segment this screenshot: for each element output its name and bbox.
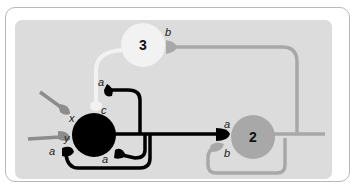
label-node2-a: a	[224, 118, 230, 130]
input-y-line	[28, 137, 60, 139]
label-node1-bottom-a: a	[102, 153, 108, 165]
edge-1-self-loop-bottom	[122, 134, 145, 158]
node-3-label: 3	[139, 37, 147, 53]
label-node2-b: b	[224, 147, 230, 159]
label-node1-c: c	[101, 104, 107, 116]
synapse-2-self-b	[210, 142, 224, 152]
label-node3-b: b	[165, 26, 171, 38]
synapse-1-left-a	[62, 147, 74, 157]
node-1	[72, 113, 116, 157]
node-2-label: 2	[249, 129, 257, 145]
label-node1-x: x	[68, 112, 75, 124]
label-node1-top-a: a	[98, 76, 104, 88]
synapse-2-to-3-b	[166, 40, 177, 54]
synapse-1-top-a	[104, 84, 113, 96]
label-node1-left-a: a	[49, 145, 55, 157]
edge-2-to-3	[176, 47, 297, 134]
